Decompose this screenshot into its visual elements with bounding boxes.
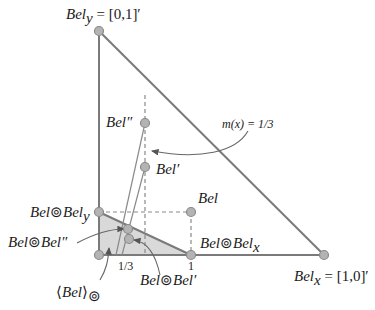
label-bel-oplus-bel-y: Bel⊚Bely — [30, 204, 90, 224]
label-bel-x: Belx = [1,0]′ — [294, 268, 369, 288]
point-bel-oplus-bel-prime — [125, 235, 134, 244]
point-bel-dprime — [141, 119, 150, 128]
point-origin — [95, 251, 104, 260]
point-bel-prime — [141, 163, 150, 172]
hypotenuse-edge — [99, 31, 324, 255]
label-conditional-subspace: ⟨Bel⟩⊚ — [56, 284, 101, 304]
label-bel-dprime: Bel″ — [106, 114, 133, 130]
tick-one-third: 1/3 — [118, 259, 133, 273]
label-bel-oplus-bel-prime: Bel⊚Bel′ — [140, 272, 197, 288]
point-bel-x — [320, 251, 329, 260]
tick-one: 1 — [188, 259, 194, 273]
point-bel-oplus-bel-dprime — [124, 225, 133, 234]
mx-arrow — [152, 131, 248, 155]
label-bel-oplus-bel-x: Bel⊚Belx — [200, 235, 260, 255]
label-bel-oplus-bel-dprime: Bel⊚Bel″ — [8, 234, 68, 250]
belief-space-diagram: Bely = [0,1]′ Belx = [1,0]′ m(x) = 1/3 B… — [0, 0, 375, 310]
label-annotation-mx: m(x) = 1/3 — [222, 117, 273, 131]
label-bel: Bel — [198, 190, 218, 206]
point-bel — [187, 208, 196, 217]
point-bel-y — [95, 27, 104, 36]
label-bel-prime: Bel′ — [156, 161, 180, 177]
label-bel-y: Bely = [0,1]′ — [66, 6, 141, 26]
point-bel-oplus-bel-y — [95, 208, 104, 217]
